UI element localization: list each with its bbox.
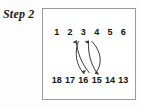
step-label: Step 2 bbox=[3, 7, 35, 22]
diagram-panel: 1 2 3 4 5 6 18 17 16 15 14 13 bbox=[42, 8, 136, 100]
arrow-layer bbox=[43, 9, 137, 101]
step-diagram: Step 2 1 2 3 4 5 6 18 17 16 15 14 13 bbox=[0, 0, 142, 108]
arrow-up-left bbox=[77, 42, 90, 73]
arrow-down-right bbox=[92, 41, 101, 73]
